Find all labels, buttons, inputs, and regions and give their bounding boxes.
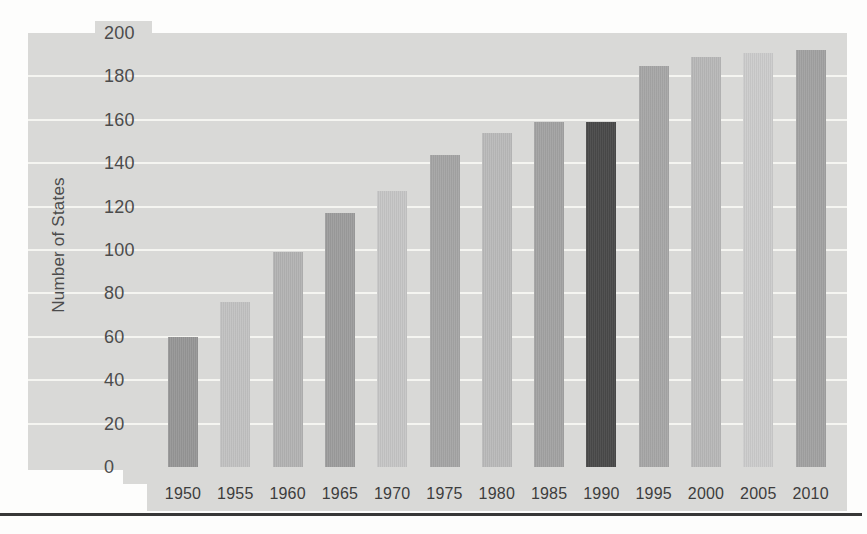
bar-1995 <box>639 66 669 467</box>
y-tick-label-80: 80 <box>104 283 150 303</box>
bar-1955 <box>220 302 250 467</box>
x-tick-label-2000: 2000 <box>688 483 724 505</box>
y-tick-label-20: 20 <box>104 414 150 434</box>
bar-1950 <box>168 337 198 467</box>
bar-1980 <box>482 133 512 467</box>
bar-1960 <box>273 252 303 467</box>
x-tick-label-1990: 1990 <box>583 483 619 505</box>
x-tick-label-1970: 1970 <box>374 483 410 505</box>
bar-1985 <box>534 122 564 467</box>
x-tick-label-1950: 1950 <box>165 483 201 505</box>
bar-2000 <box>691 57 721 467</box>
x-tick-label-1960: 1960 <box>269 483 305 505</box>
bar-1990 <box>586 122 616 467</box>
y-tick-label-0: 0 <box>104 457 150 477</box>
y-tick-label-140: 140 <box>104 153 150 173</box>
bar-1975 <box>430 155 460 467</box>
bar-1970 <box>377 191 407 467</box>
x-tick-label-1985: 1985 <box>531 483 567 505</box>
y-tick-label-120: 120 <box>104 197 150 217</box>
y-tick-label-40: 40 <box>104 370 150 390</box>
x-tick-label-1995: 1995 <box>635 483 671 505</box>
page-divider-line <box>0 513 862 516</box>
x-tick-label-1965: 1965 <box>322 483 358 505</box>
y-tick-label-180: 180 <box>104 66 150 86</box>
gridline-180 <box>28 75 847 77</box>
x-tick-label-1980: 1980 <box>479 483 515 505</box>
y-tick-label-100: 100 <box>104 240 150 260</box>
bar-2005 <box>743 53 773 467</box>
bar-2010 <box>796 50 826 467</box>
y-tick-label-200: 200 <box>104 23 150 43</box>
y-tick-label-60: 60 <box>104 327 150 347</box>
scanned-chart-page: Number of States 02040608010012014016018… <box>0 0 867 534</box>
x-tick-label-2005: 2005 <box>740 483 776 505</box>
plot-area <box>28 33 847 467</box>
bar-1965 <box>325 213 355 467</box>
plot-background-step <box>123 470 847 484</box>
x-tick-label-1975: 1975 <box>426 483 462 505</box>
gridline-160 <box>28 119 847 121</box>
y-tick-label-160: 160 <box>104 110 150 130</box>
x-tick-label-1955: 1955 <box>217 483 253 505</box>
x-tick-label-2010: 2010 <box>792 483 828 505</box>
y-axis-title: Number of States <box>49 145 69 345</box>
